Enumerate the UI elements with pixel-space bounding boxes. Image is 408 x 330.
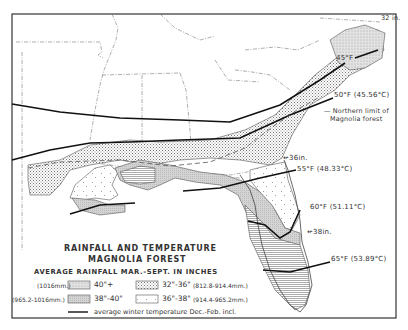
legend-swatch-40plus (68, 281, 90, 289)
legend-swatch-38-40 (68, 295, 90, 303)
label-38in: ↚38in. (307, 228, 332, 236)
legend-mm-38-40: (965.2-1016mm.) (12, 296, 65, 303)
legend-line-label: average winter temperature Dec.-Feb. inc… (94, 308, 236, 316)
label-36in: ↚36in. (283, 154, 308, 162)
legend-subtitle: AVERAGE RAINFALL MAR.-SEPT. IN INCHES (34, 268, 218, 276)
label-isotherm-65: 65°F (53.89°C) (331, 255, 386, 263)
label-isotherm-60: 60°F (51.11°C) (310, 203, 365, 211)
legend-swatch-32-36 (136, 281, 158, 289)
legend-in-40plus: 40"+ (94, 280, 113, 289)
legend-mm-40plus: (1016mm.) (37, 282, 71, 289)
label-isotherm-55: 55°F (48.33°C) (297, 165, 352, 173)
legend-mm-32-36: (812.8-914.4mm.) (193, 282, 248, 289)
label-isotherm-45: 45°F (336, 54, 353, 62)
label-northern-limit-1: — Northern limit of (324, 107, 389, 115)
legend-in-36-38: 36"-38" (162, 294, 191, 303)
legend-title-2: MAGNOLIA FOREST (88, 255, 186, 264)
legend-in-38-40: 38"-40" (94, 294, 123, 303)
legend-swatch-36-38 (136, 295, 158, 303)
legend-title-1: RAINFALL AND TEMPERATURE (64, 244, 217, 253)
label-northern-limit-2: Magnolia forest (330, 115, 382, 123)
label-32in: 32 in. (381, 14, 401, 22)
legend-mm-36-38: (914.4-965.2mm.) (193, 296, 248, 303)
label-isotherm-50: 50°F (45.56°C) (334, 91, 389, 99)
legend-in-32-36: 32"-36" (162, 280, 191, 289)
